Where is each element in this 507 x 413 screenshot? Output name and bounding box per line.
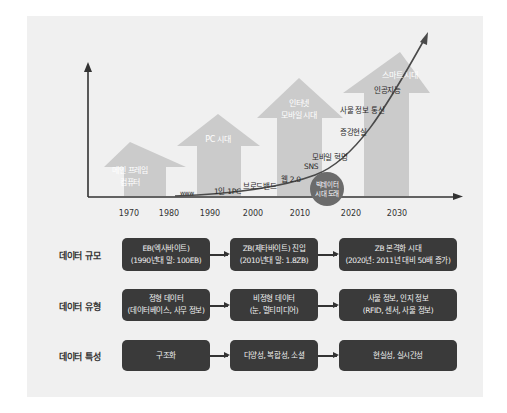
box-line: (2010년대 말: 1.8ZB) [240, 255, 309, 267]
era-label-pc: PC 시대 [198, 134, 238, 146]
row-label-data-type: 데이터 유형 [59, 300, 100, 313]
flow-arrow [210, 305, 228, 307]
curve-label-mobile-revolution: 모바일 혁명 [312, 151, 348, 162]
flow-arrow [318, 355, 337, 357]
box-line: (RFID, 센서, 사물 정보) [363, 305, 434, 317]
curve-label-1pc: 1인 1PC [214, 185, 241, 196]
box-line: (눈, 멀티미디어) [250, 305, 299, 317]
flow-arrow [210, 355, 228, 357]
x-tick-2030: 2030 [377, 209, 417, 218]
curve-label-sns: SNS [304, 162, 318, 171]
box-line: ZB(제타바이트) 진입 [243, 243, 306, 255]
box-line: 구조화 [156, 350, 176, 362]
curve-label-broadband: 브로드밴드 [243, 180, 277, 191]
type-box-iot-cognitive: 사물 정보, 인지 정보 (RFID, 센서, 사물 정보) [339, 289, 457, 321]
type-box-structured: 정형 데이터 (데이터베이스, 사무 정보) [122, 289, 210, 321]
flow-arrow [318, 254, 337, 256]
era-label-line: 메인 프레임 [110, 165, 150, 177]
curve-label-iot: 사물 정보 통신 [340, 104, 384, 115]
box-line: EB(엑사바이트) [142, 243, 189, 255]
era-label-mainframe: 메인 프레임 컴퓨터 [110, 165, 150, 189]
milestone-line: 시대 도래 [310, 190, 344, 199]
era-label-line: PC 시대 [198, 134, 238, 146]
x-tick-1990: 1990 [190, 209, 230, 218]
bigdata-milestone-label: 빅데이터 시대 도래 [310, 181, 344, 199]
curve-label-web20: 웹 2.0 [281, 173, 301, 184]
x-tick-2010: 2010 [280, 209, 320, 218]
x-axis-arrowhead-icon [453, 193, 463, 200]
scale-box-zb-era: ZB 본격화 시대 (2020년: 2011년 대비 50배 증가) [339, 238, 457, 271]
char-box-realtime: 현실성, 실시간성 [339, 340, 457, 371]
box-line: (1990년대 말: 100EB) [131, 255, 202, 267]
era-label-line: 모바일 시대 [274, 110, 324, 122]
row-label-data-characteristics: 데이터 특성 [59, 350, 100, 363]
x-tick-1970: 1970 [109, 209, 149, 218]
box-line: 다양성, 복합성, 소셜 [244, 350, 305, 362]
row-label-data-scale: 데이터 규모 [59, 249, 100, 262]
flow-arrow [318, 305, 337, 307]
box-line: (2020년: 2011년 대비 50배 증가) [345, 255, 450, 267]
scale-box-zb-entry: ZB(제타바이트) 진입 (2010년대 말: 1.8ZB) [230, 238, 318, 271]
type-box-unstructured: 비정형 데이터 (눈, 멀티미디어) [230, 289, 318, 321]
growth-curve-arrowhead-icon [420, 32, 428, 45]
x-tick-2020: 2020 [331, 209, 371, 218]
flow-arrow [210, 254, 228, 256]
box-line: 정형 데이터 [149, 293, 184, 305]
y-axis-arrowhead-icon [84, 62, 92, 72]
era-label-line: 스마트 시대 [375, 70, 425, 82]
char-box-structured: 구조화 [122, 340, 210, 371]
timeline-chart [0, 0, 507, 230]
era-label-line: 인터넷 [274, 98, 324, 110]
box-line: (데이터베이스, 사무 정보) [127, 305, 204, 317]
era-label-line: 컴퓨터 [110, 177, 150, 189]
milestone-line: 빅데이터 [310, 181, 344, 190]
x-tick-2000: 2000 [233, 209, 273, 218]
x-tick-1980: 1980 [149, 209, 189, 218]
box-line: ZB 본격화 시대 [375, 243, 421, 255]
era-label-internet-mobile: 인터넷 모바일 시대 [274, 98, 324, 122]
box-line: 사물 정보, 인지 정보 [368, 293, 429, 305]
era-label-smart: 스마트 시대 [375, 70, 425, 82]
scale-box-eb: EB(엑사바이트) (1990년대 말: 100EB) [122, 238, 210, 271]
curve-label-www: www [180, 189, 194, 196]
curve-label-ar: 증강현실 [340, 126, 367, 137]
box-line: 현실성, 실시간성 [373, 350, 423, 362]
curve-label-ai: 인공지능 [374, 84, 401, 95]
box-line: 비정형 데이터 [253, 293, 295, 305]
char-box-diversity: 다양성, 복합성, 소셜 [230, 340, 318, 371]
